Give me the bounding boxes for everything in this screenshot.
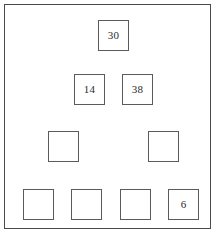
pyramid-cell-r3-c3[interactable]: 6 (168, 189, 199, 220)
pyramid-cell-r3-c0[interactable] (23, 189, 54, 220)
pyramid-cell-r3-c1[interactable] (71, 189, 102, 220)
pyramid-cell-value: 14 (84, 84, 95, 95)
pyramid-cell-r1-c0[interactable]: 14 (74, 74, 105, 105)
pyramid-cell-r0-c0[interactable]: 30 (98, 20, 129, 51)
pyramid-cell-value: 6 (181, 199, 187, 210)
pyramid-cell-value: 30 (108, 30, 119, 41)
pyramid-cell-r3-c2[interactable] (120, 189, 151, 220)
pyramid-cell-r2-c0[interactable] (48, 131, 79, 162)
diagram-frame: 3014386 (4, 4, 211, 229)
pyramid-cell-value: 38 (132, 84, 143, 95)
pyramid-cell-r1-c1[interactable]: 38 (122, 74, 153, 105)
puzzle-canvas: 3014386 (0, 0, 216, 234)
pyramid-cell-r2-c1[interactable] (148, 131, 179, 162)
